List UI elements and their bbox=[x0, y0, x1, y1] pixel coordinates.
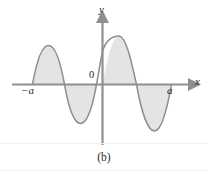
divider-top bbox=[0, 143, 208, 144]
figure-container: y x 0 −a a (b) bbox=[0, 0, 208, 173]
x-axis-label: x bbox=[195, 76, 200, 87]
positive-a-tick-label: a bbox=[167, 85, 173, 96]
origin-label: 0 bbox=[89, 70, 94, 81]
y-axis-label: y bbox=[99, 4, 104, 15]
figure-caption: (b) bbox=[0, 152, 208, 164]
negative-a-tick-label: −a bbox=[21, 85, 34, 96]
divider-bottom bbox=[0, 170, 208, 171]
